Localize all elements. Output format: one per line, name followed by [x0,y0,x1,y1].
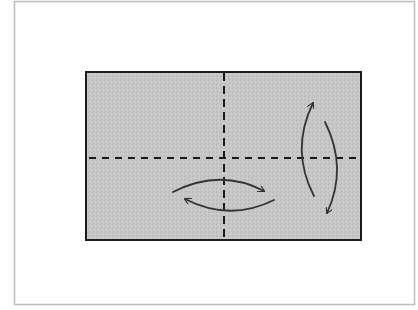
origami-diagram [0,0,418,310]
diagram-canvas [0,0,418,310]
